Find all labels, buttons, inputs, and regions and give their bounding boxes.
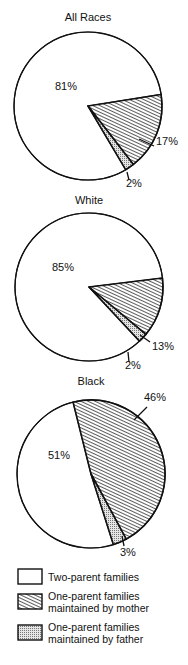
pie-charts: All Races81%17%2%White85%13%2%Black51%46… [0, 0, 188, 665]
data-label-two-parent: 81% [55, 80, 77, 92]
pie-title: White [75, 194, 103, 206]
legend-item: Two-parent families [18, 569, 139, 584]
data-label-mother: 17% [156, 135, 178, 147]
legend-swatch [18, 569, 42, 584]
data-label-father: 2% [125, 359, 141, 371]
data-label-two-parent: 85% [52, 261, 74, 273]
legend-label: maintained by mother [48, 602, 149, 614]
pie-chart-white: White85%13%2% [15, 194, 174, 371]
data-label-mother: 13% [152, 340, 174, 352]
legend-swatch [18, 625, 42, 640]
legend-item: One-parent familiesmaintained by mother [18, 590, 149, 614]
legend-label: One-parent families [48, 621, 140, 633]
legend-label: Two-parent families [48, 571, 139, 583]
pie-title: Black [78, 375, 105, 387]
data-label-two-parent: 51% [48, 449, 70, 461]
pie-title: All Races [65, 11, 112, 23]
legend-label: One-parent families [48, 590, 140, 602]
legend-label: maintained by father [48, 633, 144, 645]
legend: Two-parent familiesOne-parent familiesma… [18, 569, 149, 645]
pie-chart-black: Black51%46%3% [17, 375, 166, 558]
pie-chart-all-races: All Races81%17%2% [14, 11, 178, 189]
legend-swatch [18, 594, 42, 609]
data-label-mother: 46% [144, 391, 166, 403]
data-label-father: 3% [120, 546, 136, 558]
data-label-father: 2% [126, 177, 142, 189]
legend-item: One-parent familiesmaintained by father [18, 621, 144, 645]
